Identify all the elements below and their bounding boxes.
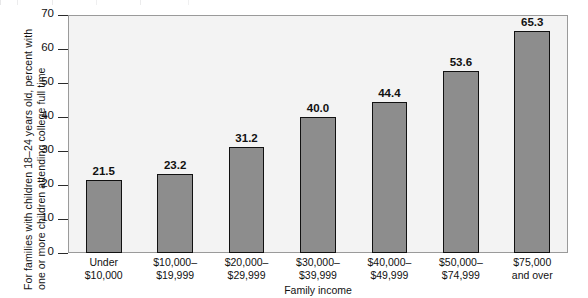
y-axis-tick-label: 50 xyxy=(41,75,54,87)
bar-slot: 65.3 xyxy=(514,15,550,253)
bar-series: 21.523.231.240.044.453.665.3 xyxy=(68,15,568,253)
bar-slot: 44.4 xyxy=(372,15,408,253)
y-axis-tick: 10 xyxy=(0,219,68,220)
x-axis-tick-label: $20,000– $29,999 xyxy=(211,256,282,281)
bar-slot: 53.6 xyxy=(443,15,479,253)
bar-value-label: 21.5 xyxy=(92,165,114,177)
bar-slot: 31.2 xyxy=(229,15,265,253)
bar[interactable] xyxy=(443,71,479,253)
y-axis-tick-mark xyxy=(58,219,68,220)
y-axis-tick: 70 xyxy=(0,15,68,16)
bar-slot: 21.5 xyxy=(86,15,122,253)
x-axis-tick-label: $30,000– $39,999 xyxy=(282,256,353,281)
bar[interactable] xyxy=(372,102,408,253)
x-axis-title: Family income xyxy=(68,284,568,296)
bar-value-label: 53.6 xyxy=(450,56,472,68)
y-axis-tick: 0 xyxy=(0,253,68,254)
y-axis-tick-label: 70 xyxy=(41,7,54,19)
x-axis-tick-label: $40,000– $49,999 xyxy=(354,256,425,281)
bar-value-label: 65.3 xyxy=(521,16,543,28)
bar-chart-figure: For families with children 18–24 years o… xyxy=(0,0,588,298)
y-axis-tick-label: 0 xyxy=(48,245,54,257)
bar-value-label: 31.2 xyxy=(235,132,257,144)
y-axis-tick-label: 20 xyxy=(41,177,54,189)
x-axis-tick-label: Under $10,000 xyxy=(68,256,139,281)
bar-slot: 40.0 xyxy=(300,15,336,253)
y-axis-tick: 40 xyxy=(0,117,68,118)
bar-value-label: 40.0 xyxy=(307,102,329,114)
bar[interactable] xyxy=(86,180,122,253)
y-axis-tick: 30 xyxy=(0,151,68,152)
y-axis-title-container: For families with children 18–24 years o… xyxy=(0,8,30,290)
scan-artifact xyxy=(0,0,588,5)
y-axis-tick-label: 30 xyxy=(41,143,54,155)
y-axis-tick: 50 xyxy=(0,83,68,84)
x-axis-tick-label: $75,000 and over xyxy=(497,256,568,281)
bar[interactable] xyxy=(229,147,265,253)
bar-slot: 23.2 xyxy=(157,15,193,253)
y-axis-tick-mark xyxy=(58,185,68,186)
y-axis-tick: 60 xyxy=(0,49,68,50)
x-axis-tick-label: $50,000– $74,999 xyxy=(425,256,496,281)
y-axis-tick-mark xyxy=(58,15,68,16)
bar[interactable] xyxy=(514,31,550,253)
bar-value-label: 44.4 xyxy=(378,87,400,99)
bar-value-label: 23.2 xyxy=(164,159,186,171)
y-axis-tick-label: 40 xyxy=(41,109,54,121)
y-axis-tick-mark xyxy=(58,117,68,118)
y-axis-tick: 20 xyxy=(0,185,68,186)
y-axis-tick-label: 60 xyxy=(41,41,54,53)
x-axis-tick-label: $10,000– $19,999 xyxy=(139,256,210,281)
y-axis-tick-mark xyxy=(58,83,68,84)
x-axis-tick-labels: Under $10,000$10,000– $19,999$20,000– $2… xyxy=(68,256,568,286)
bar[interactable] xyxy=(157,174,193,253)
y-axis-tick-mark xyxy=(58,253,68,254)
y-axis-tick-mark xyxy=(58,151,68,152)
y-axis-tick-label: 10 xyxy=(41,211,54,223)
y-axis-tick-mark xyxy=(58,49,68,50)
bar[interactable] xyxy=(300,117,336,253)
